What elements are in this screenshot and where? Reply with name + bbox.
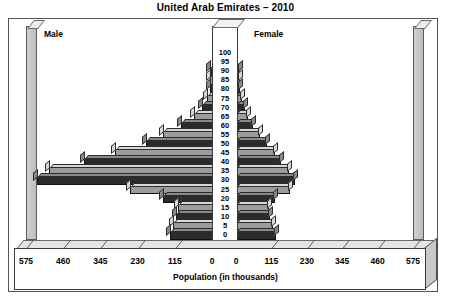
bar-top-face bbox=[237, 164, 291, 168]
age-tick-20: 20 bbox=[213, 195, 237, 203]
age-tick-75: 75 bbox=[213, 95, 237, 103]
x-tick-label-male-115: 115 bbox=[155, 256, 195, 266]
bar-end-face bbox=[265, 133, 270, 145]
age-tick-25: 25 bbox=[213, 186, 237, 194]
x-tick-label-female-230: 230 bbox=[287, 256, 327, 266]
bar-top-face bbox=[237, 155, 283, 159]
bar-top-face bbox=[237, 183, 292, 187]
age-tick-10: 10 bbox=[213, 213, 237, 221]
bar-top-face bbox=[237, 228, 279, 232]
bar-top-face bbox=[237, 219, 276, 223]
age-tick-60: 60 bbox=[213, 122, 237, 130]
age-tick-5: 5 bbox=[213, 222, 237, 230]
plot-area: Male Female 0510152025303540455055606570… bbox=[22, 26, 422, 242]
age-tick-35: 35 bbox=[213, 167, 237, 175]
x-tick-label-male-345: 345 bbox=[80, 256, 120, 266]
x-tick-label-female-0: 0 bbox=[216, 256, 256, 266]
bar-end-face bbox=[273, 142, 278, 154]
age-tick-80: 80 bbox=[213, 85, 237, 93]
age-tick-15: 15 bbox=[213, 204, 237, 212]
age-tick-50: 50 bbox=[213, 140, 237, 148]
x-tick-label-female-575: 575 bbox=[393, 256, 433, 266]
x-tick-label-female-115: 115 bbox=[251, 256, 291, 266]
age-tick-95: 95 bbox=[213, 58, 237, 66]
chart-title: United Arab Emirates – 2010 bbox=[0, 2, 451, 13]
age-tick-0: 0 bbox=[213, 231, 237, 239]
bar-end-face bbox=[287, 160, 292, 172]
bar-end-face bbox=[274, 224, 279, 236]
age-tick-100: 100 bbox=[213, 49, 237, 57]
bar-end-face bbox=[246, 106, 251, 118]
age-tick-90: 90 bbox=[213, 67, 237, 75]
age-tick-70: 70 bbox=[213, 104, 237, 112]
age-tick-30: 30 bbox=[213, 176, 237, 184]
floor-front bbox=[14, 248, 426, 290]
age-tick-55: 55 bbox=[213, 131, 237, 139]
bar-top-face bbox=[237, 173, 297, 177]
bar-top-face bbox=[237, 192, 277, 196]
population-pyramid-chart: United Arab Emirates – 2010 Male Female … bbox=[0, 0, 451, 301]
age-tick-40: 40 bbox=[213, 158, 237, 166]
age-axis: 0510152025303540455055606570758085909510… bbox=[212, 26, 238, 240]
bar-right-age-0 bbox=[236, 231, 276, 240]
bar-end-face bbox=[279, 151, 284, 163]
x-axis-title: Population (in thousands) bbox=[0, 272, 451, 282]
x-tick-label-female-460: 460 bbox=[358, 256, 398, 266]
bar-top-face bbox=[237, 146, 277, 150]
x-tick-label-female-345: 345 bbox=[322, 256, 362, 266]
bar-top-face bbox=[237, 201, 271, 205]
x-tick-label-male-230: 230 bbox=[118, 256, 158, 266]
age-tick-85: 85 bbox=[213, 76, 237, 84]
x-tick-label-male-575: 575 bbox=[6, 256, 46, 266]
age-tick-65: 65 bbox=[213, 113, 237, 121]
age-tick-45: 45 bbox=[213, 149, 237, 157]
bar-end-face bbox=[293, 169, 298, 181]
x-tick-label-male-460: 460 bbox=[43, 256, 83, 266]
